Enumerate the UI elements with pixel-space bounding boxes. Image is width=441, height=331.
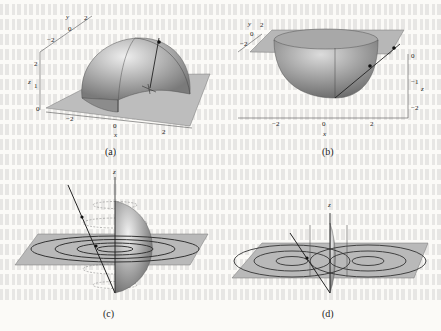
z-tick: −1 — [411, 78, 418, 86]
upper-hemisphere-plot — [0, 0, 220, 165]
y-tick: 0 — [250, 30, 254, 38]
caption-c: (c) — [103, 308, 114, 319]
x-axis-label: x — [114, 131, 117, 139]
z-axis-label: z — [28, 78, 31, 86]
y-tick: 2 — [260, 21, 264, 29]
sphere-circles-plot — [0, 165, 220, 331]
panel-b: y 2 0 −2 0 −1 z −2 −2 0 2 x (b) — [220, 0, 440, 165]
x-tick: 2 — [370, 120, 374, 128]
z-tick: 0 — [36, 105, 40, 113]
z-tick: 0 — [411, 52, 415, 60]
panel-c: z (c) — [0, 165, 220, 330]
caption-d: (d) — [322, 308, 334, 319]
z-tick: −2 — [411, 104, 418, 112]
panel-d: z (d) — [220, 165, 440, 330]
caption-a: (a) — [105, 146, 116, 157]
x-tick: 0 — [322, 120, 326, 128]
x-tick: 0 — [113, 122, 117, 130]
x-axis-label: x — [323, 130, 326, 138]
z-axis-label: z — [328, 201, 331, 209]
y-tick: −2 — [47, 36, 54, 44]
x-tick: 2 — [162, 128, 166, 136]
z-axis-label: z — [421, 85, 424, 93]
lower-hemisphere-plot — [220, 0, 441, 165]
z-axis-label: z — [113, 168, 116, 176]
z-tick: 1 — [34, 82, 38, 90]
panel-a: y 2 0 −2 z 2 1 0 −2 0 2 x (a) — [0, 0, 220, 165]
caption-b: (b) — [322, 146, 334, 157]
sphere-ellipses-plot — [220, 165, 441, 331]
z-tick: 2 — [34, 60, 38, 68]
y-tick: −2 — [240, 40, 247, 48]
y-axis-label: y — [248, 20, 251, 28]
y-axis-label: y — [66, 13, 69, 21]
y-tick: 0 — [68, 25, 72, 33]
x-tick: −2 — [66, 115, 73, 123]
y-tick: 2 — [84, 14, 88, 22]
x-tick: −2 — [272, 120, 279, 128]
